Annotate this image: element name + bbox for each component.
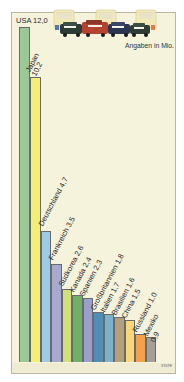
label-usa: USA 12,0 [16,17,48,25]
bar-brasilien [114,317,125,362]
bar-suedkorea [62,289,72,362]
bar-usa [19,27,30,362]
bar-grossbritannien [93,312,104,362]
baseline-strip [12,363,175,373]
bar-kanada [72,295,83,362]
bar-russland [135,334,146,362]
unit-note: Angaben in Mio. [125,42,174,49]
source-code: 3707E [161,364,172,368]
cars-and-trucks-icon [52,4,160,40]
bar-italien [104,314,114,362]
